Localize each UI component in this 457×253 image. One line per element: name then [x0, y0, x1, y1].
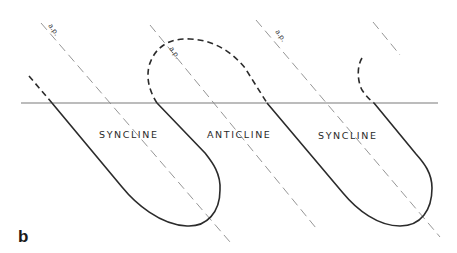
axial-plane-3	[256, 20, 440, 237]
axial-plane-4	[373, 22, 400, 55]
fold-diagram: a.p. a.p. a.p. SYNCLINE ANTICLINE SYNCLI…	[0, 0, 457, 253]
panel-label: b	[18, 227, 28, 247]
fold-line-solid	[52, 103, 432, 226]
fold-eroded-anticline	[148, 39, 267, 103]
fold-eroded-left	[29, 76, 52, 103]
syncline-left-label: SYNCLINE	[99, 129, 159, 140]
syncline-right-label: SYNCLINE	[318, 130, 378, 141]
fold-eroded-right	[358, 58, 374, 103]
anticline-label: ANTICLINE	[207, 129, 271, 140]
